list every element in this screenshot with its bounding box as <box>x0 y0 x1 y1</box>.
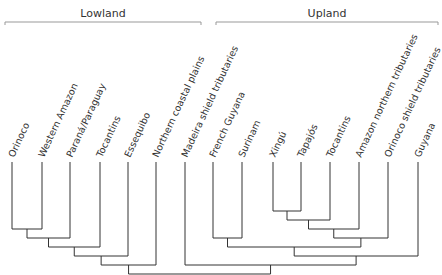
leaf-label: Surinam <box>236 118 263 159</box>
dendrogram-branch <box>27 162 70 238</box>
leaf-label: Tocantins <box>323 114 352 160</box>
leaf-label: Orinoco <box>6 121 32 159</box>
dendrogram-branch <box>12 162 42 229</box>
dendrogram-branch <box>74 162 128 256</box>
dendrogram-branch <box>129 265 271 274</box>
leaf-label: Northern coastal plains <box>150 54 207 159</box>
leaf-label: Orinoco shield tributaries <box>382 45 442 159</box>
dendrogram-branch <box>294 162 418 256</box>
leaf-label: Tocantins <box>93 114 122 160</box>
dendrogram: OrinocoWestern AmazonParaná/ParaguayToca… <box>0 0 442 275</box>
leaf-label: Essequibo <box>122 110 152 159</box>
leaf-label: Xingú <box>267 130 288 159</box>
dendrogram-branch <box>49 162 101 247</box>
dendrogram-branch <box>101 162 156 265</box>
group-bracket <box>5 22 201 25</box>
group-bracket <box>216 22 438 25</box>
dendrogram-branch <box>273 162 301 211</box>
leaf-label: Tapajós <box>294 122 319 160</box>
dendrogram-branch <box>228 238 361 247</box>
dendrogram-branch <box>334 162 388 238</box>
group-label: Upland <box>308 7 347 20</box>
leaf-label: Guyana <box>412 121 437 159</box>
group-label: Lowland <box>80 7 125 20</box>
dendrogram-branch <box>309 162 360 229</box>
dendrogram-branch <box>213 162 242 238</box>
